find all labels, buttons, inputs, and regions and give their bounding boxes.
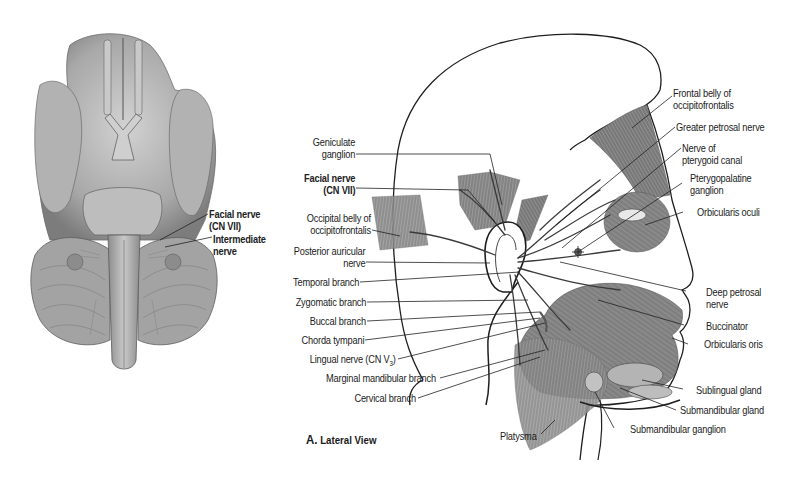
label-line: Pterygopalatine [690,172,752,184]
label-line: Facial nerve [209,208,260,220]
label-submandibular-gland: Submandibular gland [680,404,764,416]
label-line: ganglion [313,148,355,160]
figure-caption: A. Lateral View [306,432,376,447]
label-line: nerve [293,257,365,269]
label-buccal-branch: Buccal branch [310,315,366,327]
label-facial-nerve-lateral: Facial nerve (CN VII) [304,172,355,196]
figure-facial-nerve: Facial nerve (CN VII) Intermediate nerve… [0,0,788,499]
label-geniculate-ganglion: Geniculate ganglion [313,136,355,160]
label-chorda-tympani: Chorda tympani [301,334,364,346]
label-temporal-branch: Temporal branch [293,276,359,288]
label-line: nerve [213,245,266,257]
caption-letter: A. [306,432,317,447]
label-line: Posterior auricular [293,245,365,257]
label-line: Deep petrosal [706,286,761,298]
label-line: occipitofrontalis [307,224,371,236]
label-posterior-auricular-nerve: Posterior auricular nerve [293,245,365,269]
head-lateral-view [372,34,693,460]
label-facial-nerve-inferior: Facial nerve (CN VII) [209,208,260,232]
label-zygomatic-branch: Zygomatic branch [295,296,366,308]
label-platysma: Platysma [500,430,537,442]
label-line: ganglion [690,184,752,196]
label-buccinator: Buccinator [706,320,748,332]
label-occipital-belly: Occipital belly of occipitofrontalis [307,212,371,236]
label-line: occipitofrontalis [673,99,734,111]
label-line: nerve [706,298,761,310]
label-marginal-mandibular-branch: Marginal mandibular branch [326,372,436,384]
label-line: Occipital belly of [307,212,371,224]
label-line: Geniculate [313,136,355,148]
label-text: ) [393,353,396,365]
label-submandibular-ganglion: Submandibular ganglion [630,423,726,435]
label-lingual-nerve: Lingual nerve (CN V3) [310,353,396,370]
label-line: Nerve of [682,142,742,154]
label-intermediate-nerve: Intermediate nerve [213,233,266,257]
label-pterygopalatine-ganglion: Pterygopalatine ganglion [690,172,752,196]
label-line: pterygoid canal [682,154,742,166]
label-text: Lingual nerve (CN V [310,353,390,365]
label-orbicularis-oris: Orbicularis oris [704,338,763,350]
label-cervical-branch: Cervical branch [354,392,416,404]
label-line: Facial nerve [304,172,355,184]
caption-text: Lateral View [320,434,376,446]
label-line: Intermediate [213,233,266,245]
brain-inferior-view [31,34,217,369]
label-line: Frontal belly of [673,87,734,99]
label-line: (CN VII) [209,220,260,232]
label-line: (CN VII) [304,184,355,196]
label-frontal-belly: Frontal belly of occipitofrontalis [673,87,734,111]
label-deep-petrosal-nerve: Deep petrosal nerve [706,286,761,310]
label-nerve-pterygoid-canal: Nerve of pterygoid canal [682,142,742,166]
label-greater-petrosal-nerve: Greater petrosal nerve [676,121,765,133]
label-sublingual-gland: Sublingual gland [696,384,762,396]
label-orbicularis-oculi: Orbicularis oculi [697,206,760,218]
